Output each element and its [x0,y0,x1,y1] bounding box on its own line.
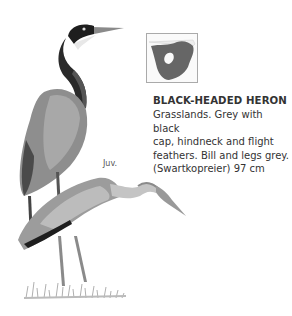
juvenile-label: Juv. [103,159,117,168]
description-line: Grasslands. Grey with black [153,109,263,134]
juvenile-heron-drawing [18,178,186,286]
description-line: (Swartkopreier) 97 cm [153,163,265,174]
description-line: cap, hindneck and flight [153,136,274,147]
species-title: BLACK-HEADED HERON [153,95,291,106]
species-description-block: BLACK-HEADED HERON Grasslands. Grey with… [153,95,291,176]
description-line: feathers. Bill and legs grey. [153,150,289,161]
range-area-icon [151,41,194,80]
species-description: Grasslands. Grey with black cap, hindnec… [153,108,291,176]
grass-drawing [24,282,126,298]
distribution-map [146,33,198,83]
